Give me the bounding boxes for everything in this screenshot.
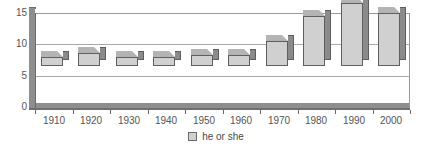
x-axis-tick-mark-1930: [110, 110, 111, 114]
bar-2000: [378, 0, 400, 108]
chart-legend: he or she: [0, 131, 432, 142]
x-axis-label-1950: 1950: [184, 115, 224, 126]
x-axis-tick-mark-1960: [223, 110, 224, 114]
bar-1970: [266, 0, 288, 108]
x-axis-tick-mark-1990: [335, 110, 336, 114]
x-axis-tick-mark-2000: [373, 110, 374, 114]
x-axis-label-2000: 2000: [371, 115, 411, 126]
bar-side-face-1940: [175, 51, 181, 60]
bar-side-face-1980: [325, 10, 331, 60]
bar-side-face-2000: [400, 7, 406, 60]
bar-front-face-1950: [191, 55, 213, 66]
bar-side-face-1930: [138, 51, 144, 60]
x-axis-label-1930: 1930: [109, 115, 149, 126]
x-axis-tick-mark-1920: [73, 110, 74, 114]
x-axis-tick-mark-1970: [260, 110, 261, 114]
x-axis-tick-mark-1940: [148, 110, 149, 114]
bar-1940: [153, 0, 175, 108]
bar-front-face-1960: [228, 55, 250, 66]
bar-front-face-1910: [41, 57, 63, 66]
bar-1960: [228, 0, 250, 108]
bar-side-face-1950: [213, 49, 219, 60]
bar-front-face-1980: [303, 16, 325, 66]
x-axis-label-1920: 1920: [71, 115, 111, 126]
x-axis-tick-mark-1980: [298, 110, 299, 114]
bar-front-face-1990: [341, 3, 363, 66]
bar-side-face-1960: [250, 49, 256, 60]
bar-side-face-1990: [363, 0, 369, 60]
bar-1920: [78, 0, 100, 108]
bar-front-face-1970: [266, 41, 288, 66]
bar-front-face-1920: [78, 53, 100, 66]
x-axis-tick-mark-1950: [185, 110, 186, 114]
x-axis-label-1940: 1940: [146, 115, 186, 126]
x-axis-tick-mark-1910: [35, 110, 36, 114]
legend-swatch-he-or-she: [188, 132, 197, 141]
bar-1980: [303, 0, 325, 108]
x-axis-label-1910: 1910: [34, 115, 74, 126]
x-axis-label-1980: 1980: [296, 115, 336, 126]
bar-side-face-1970: [288, 35, 294, 60]
bar-1950: [191, 0, 213, 108]
bar-front-face-1940: [153, 57, 175, 66]
bar-side-face-1910: [63, 51, 69, 60]
bar-front-face-1930: [116, 57, 138, 66]
x-axis-label-1990: 1990: [334, 115, 374, 126]
bar-side-face-1920: [100, 47, 106, 60]
legend-label-he-or-she: he or she: [202, 131, 244, 142]
bar-front-face-2000: [378, 13, 400, 66]
bar-chart: 15 10 5 0 191019201930194019501960197019…: [0, 0, 432, 150]
x-axis-tick-mark-end: [410, 110, 411, 114]
x-axis-label-1960: 1960: [221, 115, 261, 126]
bar-1910: [41, 0, 63, 108]
bar-1990: [341, 0, 363, 108]
x-axis-label-1970: 1970: [259, 115, 299, 126]
bar-1930: [116, 0, 138, 108]
bar-series-he-or-she: [0, 0, 432, 150]
